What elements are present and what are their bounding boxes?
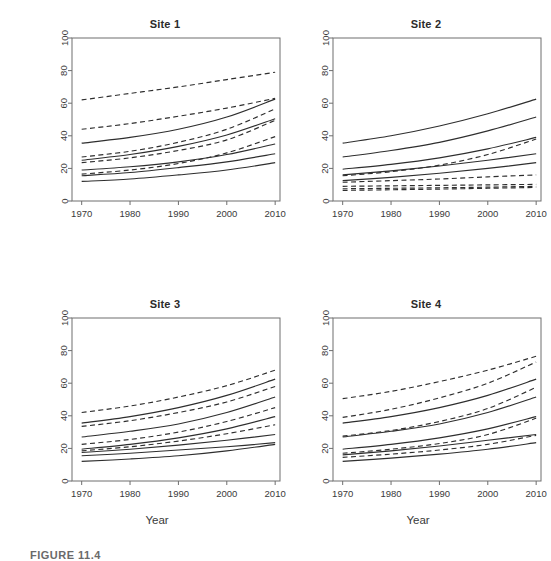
y-tick-label: 100	[320, 30, 331, 46]
plot-area-site-3: 02040608010019701980199020002010	[40, 298, 290, 523]
trend-line	[343, 99, 536, 143]
y-tick-label: 60	[320, 378, 331, 389]
y-tick-label: 0	[59, 478, 70, 483]
plot-frame	[72, 318, 280, 481]
plot-area-site-2: 02040608010019701980199020002010	[301, 18, 551, 243]
x-tick-label: 2000	[477, 208, 498, 219]
y-tick-label: 0	[320, 478, 331, 483]
x-tick-label: 1990	[168, 208, 189, 219]
x-tick-label: 1970	[71, 208, 92, 219]
figure-container: Chloride (mg/L) at median discharge = 43…	[0, 0, 551, 561]
trend-line	[82, 379, 275, 423]
x-tick-label: 1980	[380, 488, 401, 499]
trend-line	[82, 417, 275, 450]
panel-site-4: Site 4 02040608010019701980199020002010	[301, 298, 551, 523]
x-tick-label: 1970	[332, 208, 353, 219]
x-tick-label: 2010	[265, 208, 286, 219]
y-tick-label: 40	[59, 411, 70, 422]
trend-line	[343, 154, 536, 175]
trend-line	[82, 98, 275, 129]
y-tick-label: 40	[59, 131, 70, 142]
trend-line	[343, 356, 536, 398]
x-tick-label: 1970	[332, 488, 353, 499]
x-tick-label: 1970	[71, 488, 92, 499]
y-tick-label: 60	[59, 378, 70, 389]
y-tick-label: 20	[59, 163, 70, 174]
y-tick-label: 80	[59, 345, 70, 356]
x-tick-label: 1980	[380, 208, 401, 219]
x-tick-label: 2000	[216, 488, 237, 499]
trend-line	[82, 120, 275, 162]
x-tick-label: 1990	[429, 488, 450, 499]
x-axis-label-right: Year	[303, 514, 533, 526]
x-tick-label: 1990	[429, 208, 450, 219]
x-tick-label: 1990	[168, 488, 189, 499]
figure-caption: FIGURE 11.4	[30, 549, 101, 561]
x-axis-label-left: Year	[42, 514, 272, 526]
panel-site-2: Site 2 02040608010019701980199020002010	[301, 18, 551, 243]
y-tick-label: 100	[59, 30, 70, 46]
plot-frame	[333, 38, 541, 201]
y-tick-label: 80	[320, 345, 331, 356]
y-tick-label: 0	[59, 198, 70, 203]
y-tick-label: 60	[320, 98, 331, 109]
plot-area-site-4: 02040608010019701980199020002010	[301, 298, 551, 523]
y-tick-label: 40	[320, 131, 331, 142]
y-tick-label: 60	[59, 98, 70, 109]
y-tick-label: 40	[320, 411, 331, 422]
trend-line	[82, 408, 275, 445]
y-tick-label: 80	[320, 65, 331, 76]
x-tick-label: 1980	[119, 488, 140, 499]
y-tick-label: 0	[320, 198, 331, 203]
trend-line	[82, 109, 275, 157]
y-tick-label: 20	[320, 443, 331, 454]
trend-line	[343, 117, 536, 157]
plot-frame	[72, 38, 280, 201]
trend-line	[82, 72, 275, 100]
panel-site-1: Site 1 02040608010019701980199020002010	[40, 18, 290, 243]
y-tick-label: 100	[59, 310, 70, 326]
x-tick-label: 1980	[119, 208, 140, 219]
trend-line	[343, 397, 536, 437]
y-tick-label: 80	[59, 65, 70, 76]
trend-line	[343, 184, 536, 186]
y-tick-label: 20	[59, 443, 70, 454]
x-tick-label: 2010	[526, 208, 547, 219]
y-tick-label: 100	[320, 310, 331, 326]
trend-line	[82, 397, 275, 437]
x-tick-label: 2000	[216, 208, 237, 219]
x-tick-label: 2010	[526, 488, 547, 499]
plot-area-site-1: 02040608010019701980199020002010	[40, 18, 290, 243]
panel-site-3: Site 3 02040608010019701980199020002010	[40, 298, 290, 523]
x-tick-label: 2010	[265, 488, 286, 499]
x-tick-label: 2000	[477, 488, 498, 499]
y-tick-label: 20	[320, 163, 331, 174]
